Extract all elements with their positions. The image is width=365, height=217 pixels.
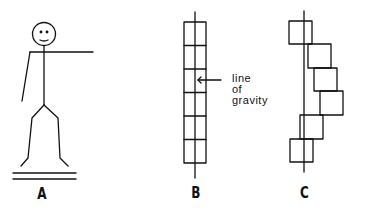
left-leg	[21, 105, 44, 166]
right-eye	[46, 31, 48, 33]
panel-label-b: B	[191, 184, 200, 202]
head	[33, 23, 56, 46]
block-1	[289, 21, 312, 44]
block-3	[314, 68, 337, 91]
block-6	[290, 139, 313, 162]
stick-figure	[13, 23, 93, 180]
left-eye	[40, 31, 42, 33]
misaligned-block-stack	[289, 11, 343, 172]
panel-label-c: C	[300, 184, 309, 202]
annotation-line-3: gravity	[232, 95, 268, 106]
line-of-gravity-annotation: line of gravity	[232, 73, 268, 106]
hanging-arm	[22, 52, 30, 101]
right-leg	[44, 105, 68, 166]
panel-label-a: A	[37, 185, 46, 203]
mouth	[40, 40, 48, 41]
figure-canvas	[0, 0, 365, 217]
block-4	[320, 91, 343, 115]
aligned-block-stack	[184, 12, 221, 178]
block-2	[308, 44, 331, 68]
